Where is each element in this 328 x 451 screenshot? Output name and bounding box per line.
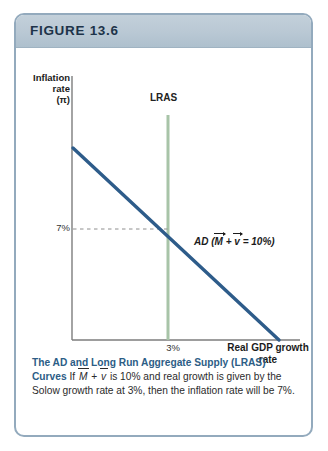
figure-number-title: FIGURE 13.6 xyxy=(30,23,119,38)
ad-label-prefix: AD ( xyxy=(194,236,215,247)
y-axis-title-line-1: Inflation xyxy=(16,72,70,83)
ad-label-velocity-vector: v xyxy=(234,236,240,248)
y-axis-title-line-2: rate xyxy=(16,83,70,94)
figure-header-band: FIGURE 13.6 xyxy=(16,15,311,48)
caption-money-vector: M xyxy=(78,370,89,384)
y-axis-tick-label-7pct: 7% xyxy=(42,222,70,233)
caption-plus: + xyxy=(88,371,100,382)
figure-card: FIGURE 13.6 Inflation rate (π) LRAS 7% 3… xyxy=(14,13,313,437)
figure-caption-body-1: If xyxy=(67,371,78,382)
ad-label-money-vector: M xyxy=(215,236,223,248)
caption-velocity-vector: v xyxy=(100,370,107,384)
y-axis-title: Inflation rate (π) xyxy=(16,72,70,106)
x-axis-tick-label-3pct: 3% xyxy=(156,342,190,353)
chart-plot-area: Inflation rate (π) LRAS 7% 3% AD (M + v … xyxy=(16,48,313,350)
ad-label-suffix: = 10%) xyxy=(240,236,275,247)
y-axis-title-line-3: (π) xyxy=(16,94,70,105)
ad-curve-label: AD (M + v = 10%) xyxy=(194,236,275,248)
figure-caption: The AD and Long Run Aggregate Supply (LR… xyxy=(16,356,313,398)
lras-curve-label: LRAS xyxy=(150,92,177,104)
